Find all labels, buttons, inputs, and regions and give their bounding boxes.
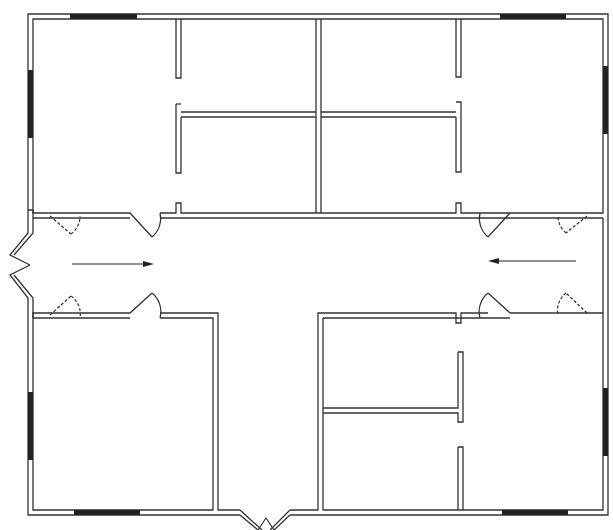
dashed-door-swings: [50, 216, 587, 318]
interior-walls-north: [176, 19, 461, 213]
door-swings: [152, 213, 488, 318]
window-w-north: [28, 70, 33, 138]
window-s-west: [74, 510, 140, 515]
arrow-east-icon: [72, 261, 154, 267]
outer-wall-south: [28, 318, 608, 515]
window-e-north: [603, 66, 608, 134]
east-wall-corridor: [603, 210, 608, 318]
window-n-west: [70, 14, 137, 19]
outer-wall-north: [28, 14, 608, 210]
arrow-west-icon: [488, 258, 576, 264]
west-entrance: [10, 210, 33, 318]
window-e-south: [603, 388, 608, 456]
window-s-east: [502, 510, 568, 515]
interior-walls-southeast: [323, 352, 463, 510]
window-n-east: [500, 14, 566, 19]
floor-plan: [0, 0, 613, 530]
south-entrance: [240, 510, 290, 530]
window-w-south: [28, 392, 33, 460]
